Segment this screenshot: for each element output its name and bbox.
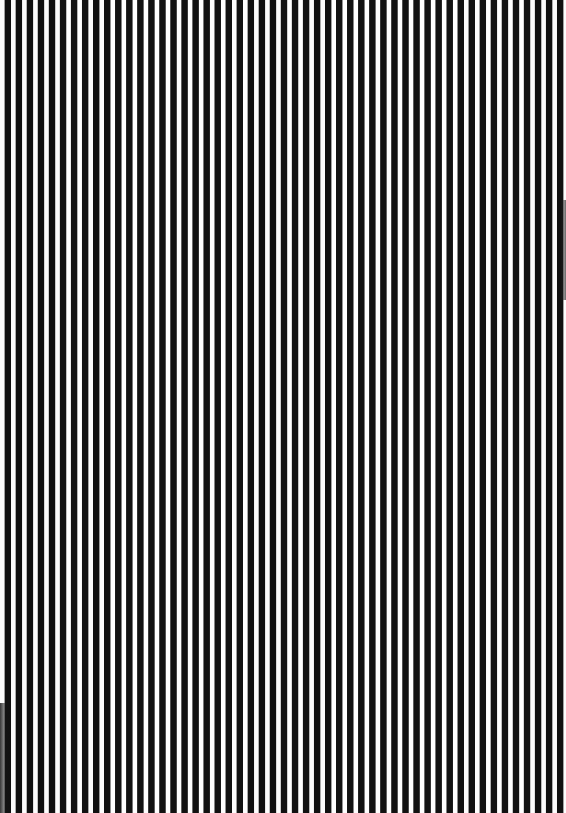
edge-shadow-right <box>560 200 566 300</box>
vertical-stripe-pattern <box>0 0 566 813</box>
stripe-photo: Black and white vertical stripe pattern <box>0 0 566 813</box>
edge-shadow-bottom-left <box>0 703 10 813</box>
